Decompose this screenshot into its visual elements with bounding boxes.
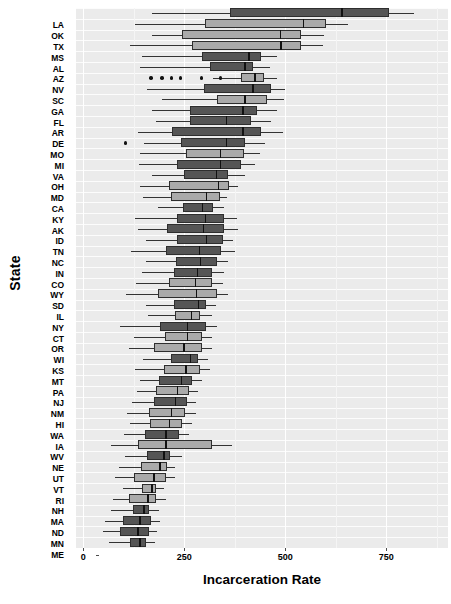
y-axis-title-text: State [7,255,23,291]
median-line [248,52,250,61]
median-line [200,257,202,266]
whisker-upper [261,56,277,57]
boxplot-row [76,41,448,51]
box-iqr [147,451,170,460]
median-line [206,192,208,201]
whisker-upper [264,78,277,79]
x-tick-label-750: 750 [379,552,394,562]
whisker-upper [253,67,270,68]
box-iqr [156,386,190,395]
y-tick-label-va: VA [53,172,64,182]
box-iqr [166,246,221,255]
median-line [226,138,228,147]
whisker-upper [251,121,271,122]
box-iqr [138,440,212,449]
whisker-lower [132,402,154,403]
box-iqr [190,116,251,125]
median-line [147,494,149,503]
whisker-upper [200,315,211,316]
whisker-lower [158,207,183,208]
median-line [244,95,246,104]
whisker-lower [109,542,130,543]
x-tick-label-250: 250 [177,552,192,562]
boxplot-row [76,278,448,288]
whisker-upper [212,283,223,284]
boxplot-row [76,268,448,278]
boxplot-row [76,376,448,386]
whisker-upper [326,24,348,25]
whisker-upper [212,272,224,273]
outlier-point [124,141,127,144]
boxplot-row [76,8,448,18]
whisker-upper [257,110,277,111]
median-line [196,289,198,298]
boxplot-row [76,386,448,396]
median-line [181,376,183,385]
median-line [226,116,228,125]
whisker-upper [185,413,195,414]
boxplot-row [76,30,448,40]
whisker-lower [130,423,150,424]
y-tick-label-hi: HI [56,420,65,430]
boxplot-row [76,106,448,116]
boxplot-row [76,203,448,213]
boxplot-chart: State LAOKTXMSALAZNVSCGAFLARDEMOMIVAOHMD… [0,0,451,604]
y-tick-label-co: CO [51,280,64,290]
median-line [195,278,197,287]
boxplot-row [76,73,448,83]
x-tick-mark [184,548,185,551]
outlier-point [149,76,152,79]
box-iqr [167,224,224,233]
median-line [153,473,155,482]
whisker-upper [220,197,227,198]
median-line [206,235,208,244]
median-line [220,160,222,169]
boxplot-row [76,484,448,494]
whisker-upper [182,423,191,424]
outlier-point [170,76,173,79]
whisker-lower [139,164,177,165]
box-iqr [184,170,228,179]
x-tick-label-500: 500 [278,552,293,562]
box-iqr [175,311,200,320]
boxplot-row [76,62,448,72]
median-line [139,538,141,547]
y-tick-label-ny: NY [52,323,64,333]
plot-panel [76,8,448,548]
y-tick-label-ma: MA [51,517,64,527]
whisker-lower [124,434,145,435]
median-line [205,214,207,223]
y-tick-label-ia: IA [56,442,65,452]
median-line [216,170,218,179]
boxplot-row [76,289,448,299]
whisker-upper [198,359,207,360]
y-tick-label-or: OR [51,344,64,354]
boxplot-row [76,224,448,234]
whisker-lower [140,186,169,187]
whisker-lower [134,337,166,338]
whisker-lower [137,391,156,392]
whisker-upper [301,45,322,46]
boxplot-row [76,149,448,159]
whisker-lower [135,218,177,219]
whisker-lower [127,413,149,414]
whisker-lower [103,531,120,532]
whisker-upper [271,89,285,90]
y-axis-title: State [2,0,28,545]
boxplot-row [76,505,448,515]
median-line [151,484,153,493]
box-iqr [171,354,198,363]
whisker-upper [166,477,175,478]
median-line [159,462,161,471]
whisker-lower [140,67,210,68]
box-iqr [169,278,211,287]
whisker-upper [244,153,260,154]
median-line [175,397,177,406]
box-iqr [204,84,271,93]
boxplot-row [76,408,448,418]
y-tick-label-wi: WI [54,355,64,365]
median-line [177,386,179,395]
whisker-upper [224,229,238,230]
median-line [143,505,145,514]
y-tick-label-mt: MT [52,377,64,387]
